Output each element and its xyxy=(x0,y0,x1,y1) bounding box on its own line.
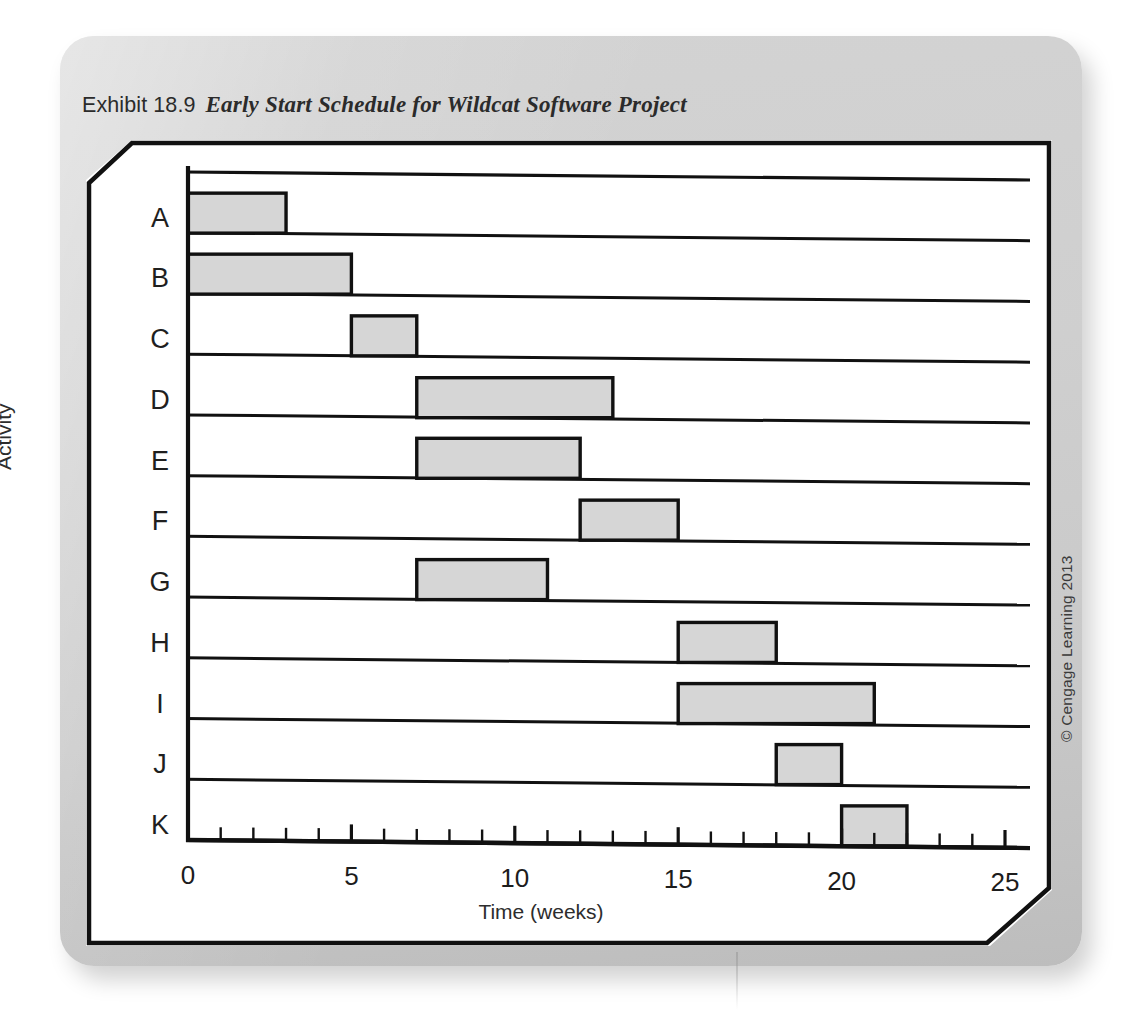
gantt-bar-a[interactable]: A: week 0 – 3 xyxy=(188,193,286,233)
activity-label-k: K xyxy=(151,810,169,840)
row-baseline-j xyxy=(186,779,1030,787)
gantt-bar-h[interactable]: H: week 15 – 18 xyxy=(678,622,776,662)
row-baseline-a xyxy=(186,233,1030,241)
x-tick-label-5: 5 xyxy=(344,861,358,891)
activity-label-h: H xyxy=(150,628,170,658)
row-baseline-i xyxy=(186,719,1030,727)
gantt-bar-b[interactable]: B: week 0 – 5 xyxy=(188,254,351,294)
x-tick-label-10: 10 xyxy=(500,863,529,893)
gantt-bar-f[interactable]: F: week 12 – 15 xyxy=(580,500,678,540)
x-tick-label-0: 0 xyxy=(181,860,195,890)
activity-label-a: A xyxy=(151,203,169,233)
page-crease xyxy=(736,952,738,1010)
gantt-bar-d[interactable]: D: week 7 – 13 xyxy=(417,378,613,418)
activity-label-b: B xyxy=(151,263,169,293)
row-baseline-c xyxy=(186,354,1030,362)
gantt-bar-j[interactable]: J: week 18 – 20 xyxy=(776,745,841,785)
activity-label-c: C xyxy=(150,324,170,354)
activity-label-j: J xyxy=(153,749,167,779)
exhibit-title: Early Start Schedule for Wildcat Softwar… xyxy=(206,92,687,117)
x-tick-label-25: 25 xyxy=(991,867,1020,897)
row-baseline-h xyxy=(186,658,1030,666)
activity-label-f: F xyxy=(152,506,169,536)
row-top-rule xyxy=(186,172,1030,180)
x-axis-tick-labels: 0510152025 xyxy=(181,860,1020,897)
gantt-chart: A: week 0 – 3B: week 0 – 5C: week 5 – 7D… xyxy=(86,140,1052,946)
y-axis-category-labels: ABCDEFGHIJK xyxy=(149,203,170,840)
row-baseline-e xyxy=(186,476,1030,484)
y-axis-title: Activity xyxy=(0,403,16,470)
exhibit-caption: Exhibit 18.9Early Start Schedule for Wil… xyxy=(82,92,687,118)
exhibit-number: Exhibit 18.9 xyxy=(82,93,196,117)
activity-label-e: E xyxy=(151,446,169,476)
activity-label-g: G xyxy=(149,567,170,597)
gantt-bar-c[interactable]: C: week 5 – 7 xyxy=(351,316,416,356)
gantt-bar-e[interactable]: E: week 7 – 12 xyxy=(417,438,580,478)
activity-label-i: I xyxy=(156,689,164,719)
copyright-notice: © Cengage Learning 2013 xyxy=(1058,555,1076,742)
bar-series: A: week 0 – 3B: week 0 – 5C: week 5 – 7D… xyxy=(188,193,907,846)
row-baseline-g xyxy=(186,597,1030,605)
gantt-bar-i[interactable]: I: week 15 – 21 xyxy=(678,684,874,724)
gantt-plot-svg: A: week 0 – 3B: week 0 – 5C: week 5 – 7D… xyxy=(86,140,1052,946)
gantt-bar-g[interactable]: G: week 7 – 11 xyxy=(417,560,548,600)
x-axis-title: Time (weeks) xyxy=(0,900,1082,924)
x-tick-label-15: 15 xyxy=(664,864,693,894)
x-tick-label-20: 20 xyxy=(827,866,856,896)
activity-label-d: D xyxy=(150,385,170,415)
